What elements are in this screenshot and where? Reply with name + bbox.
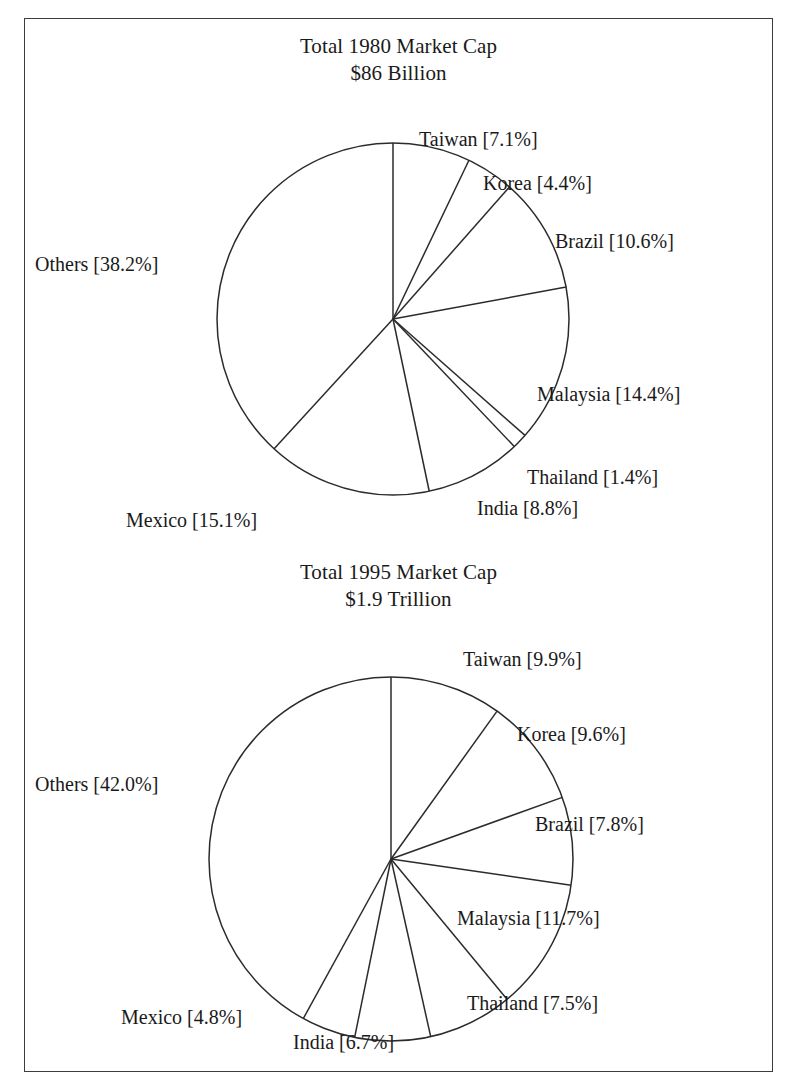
pie-slice-label-taiwan: Taiwan [7.1%] [419, 127, 538, 151]
pie-slice-label-others: Others [38.2%] [35, 252, 158, 276]
pie-panel-1995: Total 1995 Market Cap $1.9 Trillion Taiw… [25, 539, 772, 1073]
pie-slice-label-brazil: Brazil [7.8%] [535, 812, 644, 836]
pie-slice-label-thailand: Thailand [1.4%] [527, 465, 658, 489]
pie-slice-label-malaysia: Malaysia [14.4%] [537, 382, 680, 406]
pie-slice-label-others: Others [42.0%] [35, 772, 158, 796]
panel-title-1995: Total 1995 Market Cap $1.9 Trillion [25, 559, 772, 613]
figure-frame: Total 1980 Market Cap $86 Billion Taiwan… [24, 18, 773, 1072]
pie-panel-1980: Total 1980 Market Cap $86 Billion Taiwan… [25, 19, 772, 539]
pie-slice-label-brazil: Brazil [10.6%] [555, 229, 674, 253]
pie-slice-label-india: India [8.8%] [477, 496, 578, 520]
pie-slice-label-thailand: Thailand [7.5%] [467, 991, 598, 1015]
pie-slice-label-india: India [6.7%] [293, 1030, 394, 1054]
pie-slice-label-mexico: Mexico [15.1%] [126, 508, 257, 532]
pie-slice-label-korea: Korea [4.4%] [483, 171, 592, 195]
pie-slice-label-taiwan: Taiwan [9.9%] [463, 647, 582, 671]
pie-slice-label-malaysia: Malaysia [11.7%] [457, 906, 600, 930]
panel-title-1980: Total 1980 Market Cap $86 Billion [25, 33, 772, 87]
pie-slice-label-mexico: Mexico [4.8%] [121, 1005, 242, 1029]
pie-slice-label-korea: Korea [9.6%] [517, 722, 626, 746]
